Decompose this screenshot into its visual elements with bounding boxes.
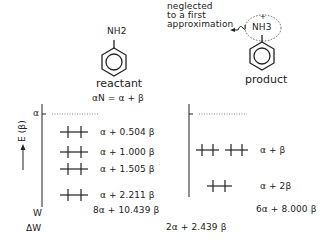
reactant-group: NH2 — [107, 26, 127, 36]
product-level-1: α + β — [260, 145, 285, 155]
w-label: W — [33, 208, 42, 218]
reactant-level-2: α + 1.000 β — [100, 147, 155, 157]
energy-arrow-icon — [21, 144, 26, 150]
product-levels — [196, 144, 248, 192]
reactant-benzene-icon — [102, 40, 126, 76]
reactant-levels — [60, 126, 88, 201]
note-line-3: approximation — [167, 20, 233, 29]
delta-w-value: 2α + 2.439 β — [166, 222, 227, 232]
neglected-note: neglected to a first approximation — [167, 2, 233, 29]
alpha-tick-label: α — [33, 108, 39, 118]
reactant-level-1: α + 0.504 β — [100, 127, 155, 137]
product-total-w: 6α + 8.000 β — [256, 204, 317, 214]
delta-w-label: ΔW — [26, 223, 41, 233]
reactant-total-w: 8α + 10.439 β — [93, 205, 159, 215]
alpha-n-equation: αN = α + β — [92, 93, 144, 103]
positive-charge-icon: + — [260, 13, 266, 21]
product-label: product — [245, 73, 287, 86]
nh3-label: NH3 — [252, 22, 272, 32]
energy-axis-label: E (β) — [17, 120, 27, 142]
reactant-label: reactant — [96, 77, 142, 90]
product-benzene-icon — [250, 35, 274, 70]
product-level-2: α + 2β — [260, 181, 291, 191]
reactant-level-4: α + 2.211 β — [100, 190, 155, 200]
reactant-level-3: α + 1.505 β — [100, 164, 155, 174]
nh2-label: NH2 — [107, 26, 127, 36]
